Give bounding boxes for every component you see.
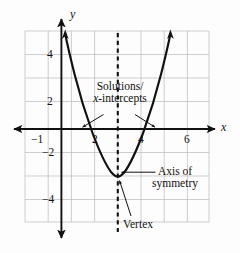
axis-of-symmetry-line1: Axis of — [158, 165, 220, 177]
y-tick-label-2: 2 — [47, 95, 53, 107]
solutions-annotation-line2: x-intercepts — [82, 92, 158, 104]
y-tick-label-minus-2: −2 — [42, 146, 54, 158]
x-axis-label: x — [221, 121, 226, 134]
solutions-annotation-line1: Solutions/ — [82, 80, 158, 92]
y-axis-label: y — [70, 8, 75, 21]
axis-of-symmetry-annotation: Axis of symmetry — [158, 165, 220, 189]
solutions-annotation-intercepts: -intercepts — [98, 92, 147, 104]
axis-of-symmetry-line2: symmetry — [152, 177, 220, 189]
x-tick-label-4: 4 — [138, 133, 144, 145]
parabola-left-arm — [65, 34, 118, 177]
leader-vertex — [120, 181, 132, 217]
vertex-annotation: Vertex — [112, 218, 164, 230]
y-tick-label-minus-4: −4 — [42, 193, 54, 205]
x-tick-label-2: 2 — [92, 133, 98, 145]
x-tick-label-minus-1: −1 — [31, 133, 43, 145]
x-tick-label-6: 6 — [184, 133, 190, 145]
solutions-annotation: Solutions/ x-intercepts — [82, 80, 158, 104]
parabola-right-arm — [118, 34, 171, 177]
figure-container: y x 4 2 −2 −4 −1 2 4 6 Solutions/ x-inte… — [0, 0, 240, 253]
graph-canvas — [0, 0, 240, 253]
y-tick-label-4: 4 — [47, 48, 53, 60]
